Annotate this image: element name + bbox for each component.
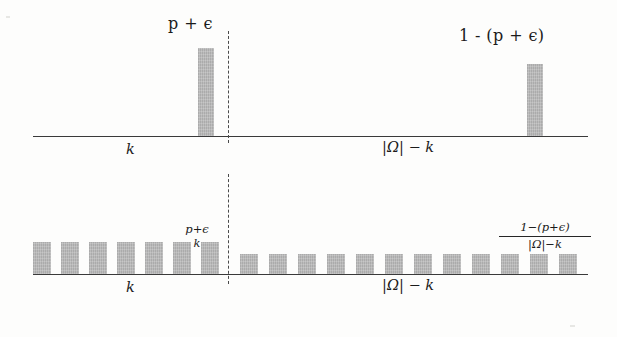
axis-label-bottom-right: |Ω| − k [382, 278, 434, 293]
bar-left-group [61, 242, 79, 274]
bar-right-group [443, 254, 461, 274]
axis-line-top [33, 136, 588, 137]
value-label-top-right: 1 - (p + ϵ) [459, 28, 544, 45]
bar-right-group [298, 254, 316, 274]
bar-right-group [240, 254, 258, 274]
value-label-bottom-left-numerator: p+ϵ [170, 223, 224, 237]
axis-label-top-left: k [126, 142, 135, 157]
bar-top-left [198, 48, 214, 136]
bar-left-group [117, 242, 135, 274]
bar-right-group [385, 254, 403, 274]
figure-container: p + ϵ 1 - (p + ϵ) k |Ω| − k p+ϵ k 1−(p+ϵ… [0, 0, 617, 337]
chart-panel-per-element: p+ϵ k 1−(p+ϵ) |Ω|−k k [0, 170, 617, 337]
value-label-bottom-right-numerator: 1−(p+ϵ) [499, 221, 591, 237]
value-label-bottom-right: 1−(p+ϵ) |Ω|−k [499, 221, 591, 251]
bar-left-group [173, 242, 191, 274]
bar-left-group [145, 242, 163, 274]
bar-left-group [33, 242, 51, 274]
bar-right-group [414, 254, 432, 274]
bar-right-group [356, 254, 374, 274]
bar-top-right [527, 64, 543, 136]
axis-line-bottom [33, 274, 588, 275]
axis-label-bottom-left: k [126, 280, 135, 295]
chart-panel-aggregate: p + ϵ 1 - (p + ϵ) k |Ω| − k [0, 0, 617, 170]
bar-right-group [530, 254, 548, 274]
value-label-bottom-right-denominator: |Ω|−k [499, 237, 591, 252]
bar-right-group [269, 254, 287, 274]
bar-right-group [501, 254, 519, 274]
bar-left-group [89, 242, 107, 274]
value-label-top-left: p + ϵ [168, 16, 213, 33]
bar-right-group [559, 254, 577, 274]
bar-right-group [327, 254, 345, 274]
bar-left-group [201, 242, 219, 274]
bar-right-group [472, 254, 490, 274]
axis-label-top-right: |Ω| − k [382, 140, 434, 155]
divider-top [228, 31, 229, 143]
divider-bottom [228, 174, 229, 284]
